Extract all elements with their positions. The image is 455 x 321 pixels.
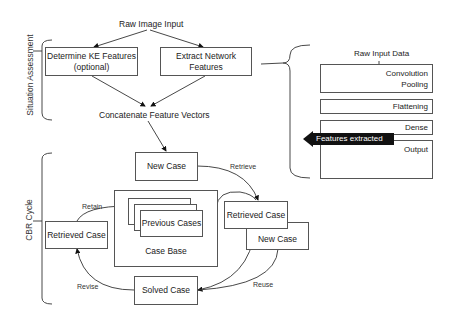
raw-image-input-label: Raw Image Input — [119, 19, 183, 29]
raw-input-data-label: Raw Input Data — [354, 49, 409, 58]
solved-case-text: Solved Case — [142, 285, 190, 296]
ke-features-line2: (optional) — [74, 62, 109, 73]
new-case-text: New Case — [147, 161, 186, 172]
retrieved-case-left-text: Retrieved Case — [47, 230, 106, 241]
layer-convolution-pooling: Convolution Pooling — [320, 64, 433, 93]
retrieved-case-left-box: Retrieved Case — [45, 221, 108, 249]
layer-pooling-text: Pooling — [321, 79, 428, 90]
solved-case-box: Solved Case — [134, 276, 198, 305]
layer-convolution-text: Convolution — [321, 68, 428, 79]
case-base-text: Case Base — [145, 246, 187, 257]
new-case-right-text: New Case — [258, 234, 297, 245]
retrieve-label: Retrieve — [230, 163, 256, 170]
layer-flattening: Flattening — [320, 99, 433, 114]
concatenate-label: Concatenate Feature Vectors — [99, 110, 210, 120]
ke-features-line1: Determine KE Features — [47, 51, 136, 62]
retrieved-case-right-box: Retrieved Case — [224, 201, 288, 229]
ke-features-box: Determine KE Features (optional) — [45, 47, 138, 76]
previous-cases-text: Previous Cases — [142, 218, 202, 229]
new-case-box: New Case — [135, 152, 198, 181]
retain-label: Retain — [82, 203, 102, 210]
retrieved-case-right-text: Retrieved Case — [227, 210, 286, 221]
features-extracted-label: Features extracted — [316, 133, 383, 144]
layer-flattening-text: Flattening — [321, 101, 428, 112]
previous-cases-box: Previous Cases — [140, 210, 203, 237]
network-features-line2: Features — [189, 62, 223, 73]
reuse-label: Reuse — [253, 281, 273, 288]
cbr-cycle-label: CBR Cycle — [24, 190, 34, 250]
situation-assessment-label: Situation Assessment — [25, 30, 35, 120]
revise-label: Revise — [77, 283, 98, 290]
network-features-line1: Extract Network — [176, 51, 236, 62]
network-features-box: Extract Network Features — [160, 47, 252, 76]
